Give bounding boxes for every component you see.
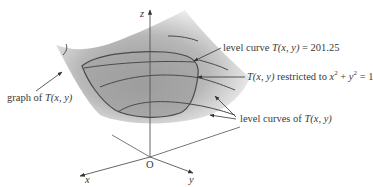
level-curve-prefix: level curve: [223, 42, 272, 53]
restricted-func: T(x, y): [247, 71, 274, 82]
origin-label: O: [146, 159, 154, 171]
restricted-plus: +: [338, 71, 349, 82]
x-axis-label: x: [85, 174, 90, 186]
level-curve-func: T(x, y): [272, 42, 299, 53]
level-curves-func: T(x, y): [304, 113, 331, 124]
level-curves-prefix: level curves of: [240, 113, 304, 124]
restricted-suffix: = 1: [357, 71, 373, 82]
level-curve-label: level curve T(x, y) = 201.25: [223, 42, 339, 54]
z-axis-label: z: [140, 8, 144, 20]
graph-label: graph of T(x, y): [7, 92, 72, 104]
graph-func: T(x, y): [45, 92, 72, 103]
level-curves-label: level curves of T(x, y): [240, 113, 332, 125]
graph-prefix: graph of: [7, 92, 45, 103]
level-curve-value: = 201.25: [299, 42, 339, 53]
restricted-middle: restricted to: [274, 71, 329, 82]
x-axis: [80, 157, 150, 176]
floor-axes: [112, 127, 240, 157]
y-axis: [150, 157, 193, 173]
restricted-label: T(x, y) restricted to x2 + y2 = 1: [247, 71, 373, 83]
y-axis-label: y: [189, 174, 194, 186]
